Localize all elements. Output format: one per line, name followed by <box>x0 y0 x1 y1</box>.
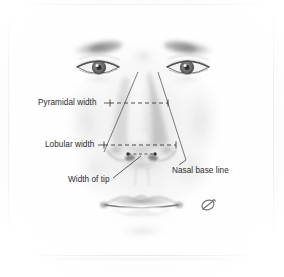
label-nasal-base-line: Nasal base line <box>172 166 229 176</box>
nasal-base-left-line <box>104 72 138 152</box>
label-width-of-tip: Width of tip <box>68 175 110 185</box>
width-of-tip-line <box>126 152 156 155</box>
figure-root: Pyramidal width Lobular width Width of t… <box>0 0 284 277</box>
label-pyramidal-width: Pyramidal width <box>38 98 97 108</box>
nasal-base-right-line <box>158 72 186 160</box>
annotation-layer <box>0 0 284 277</box>
nasal-base-line-leader <box>179 160 186 165</box>
width-of-tip-leader <box>113 156 141 178</box>
artist-monogram <box>198 196 218 214</box>
label-lobular-width: Lobular width <box>45 140 94 150</box>
lobular-width-line <box>104 142 176 149</box>
pyramidal-width-line <box>110 100 168 107</box>
